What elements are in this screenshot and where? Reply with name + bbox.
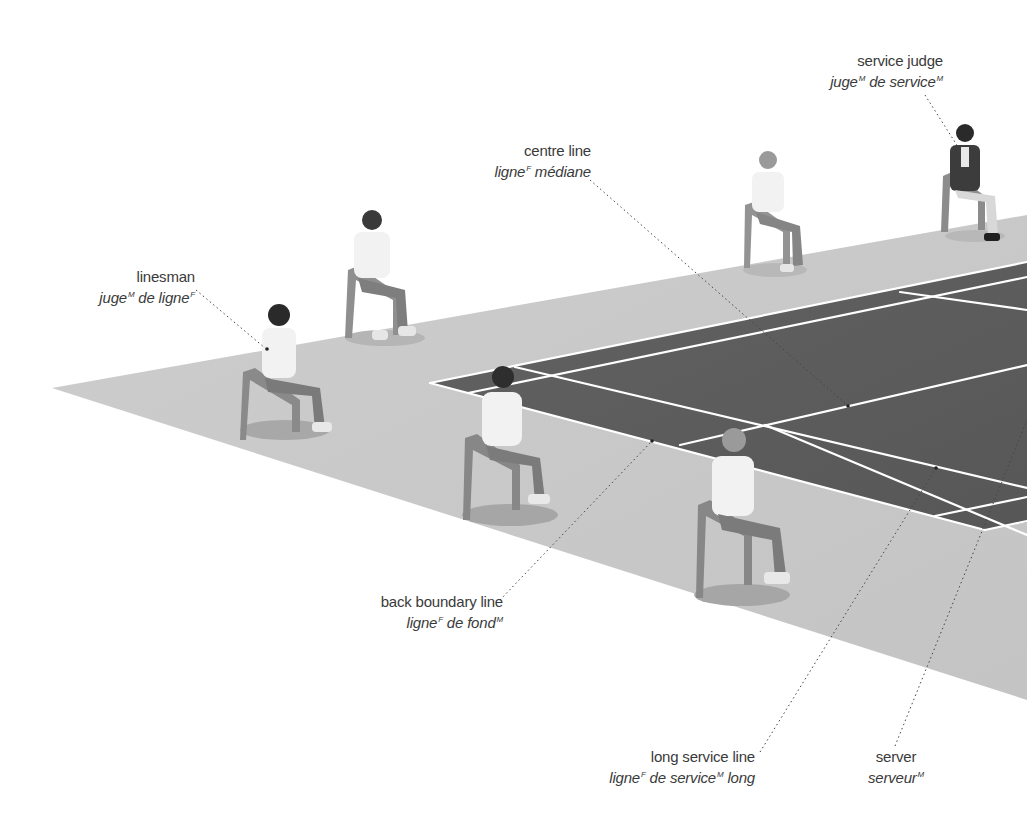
label-en: linesman [99, 268, 195, 286]
label-fr: jugeM de ligneF [99, 286, 195, 307]
label-en: long service line [609, 748, 755, 766]
label-server: server serveurM [856, 748, 936, 787]
label-en: server [856, 748, 936, 766]
label-centre-line: centre line ligneF médiane [495, 142, 592, 181]
label-en: centre line [495, 142, 592, 160]
figure-service-judge [941, 124, 1005, 242]
label-fr: serveurM [856, 766, 936, 787]
label-fr: jugeM de serviceM [830, 70, 943, 91]
leader-service-judge [925, 95, 960, 150]
label-back-boundary-line: back boundary line ligneF de fondM [381, 593, 503, 632]
figure-line-judge-centre [743, 151, 807, 277]
label-fr: ligneF de serviceM long [609, 766, 755, 787]
label-en: back boundary line [381, 593, 503, 611]
label-fr: ligneF de fondM [381, 611, 503, 632]
label-en: service judge [830, 52, 943, 70]
label-long-service-line: long service line ligneF de serviceM lon… [609, 748, 755, 787]
label-linesman: linesman jugeM de ligneF [99, 268, 195, 307]
court-illustration [0, 0, 1027, 833]
label-service-judge: service judge jugeM de serviceM [830, 52, 943, 91]
label-fr: ligneF médiane [495, 160, 592, 181]
leader-linesman [196, 290, 265, 348]
